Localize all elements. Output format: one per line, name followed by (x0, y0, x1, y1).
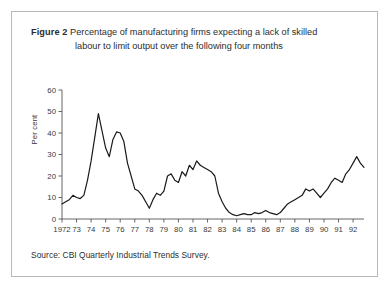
svg-text:30: 30 (47, 150, 56, 159)
data-series-line (62, 114, 364, 216)
svg-text:88: 88 (291, 225, 300, 234)
svg-text:90: 90 (320, 225, 329, 234)
figure-frame: Figure 2 Percentage of manufacturing fir… (11, 11, 378, 277)
figure-label: Figure 2 (31, 27, 68, 37)
figure-caption-line-2: labour to limit output over the followin… (31, 40, 361, 54)
svg-text:82: 82 (203, 225, 212, 234)
svg-text:40: 40 (47, 129, 56, 138)
svg-text:79: 79 (160, 225, 169, 234)
svg-text:75: 75 (101, 225, 110, 234)
svg-text:83: 83 (218, 225, 227, 234)
svg-text:60: 60 (47, 86, 56, 95)
y-axis-title: Per cent (30, 100, 39, 160)
svg-text:91: 91 (334, 225, 343, 234)
svg-text:20: 20 (47, 172, 56, 181)
source-note: Source: CBI Quarterly Industrial Trends … (31, 250, 210, 260)
svg-text:87: 87 (276, 225, 285, 234)
figure-caption: Figure 2 Percentage of manufacturing fir… (31, 26, 361, 53)
svg-text:81: 81 (189, 225, 198, 234)
svg-text:84: 84 (232, 225, 241, 234)
svg-text:85: 85 (247, 225, 256, 234)
svg-text:86: 86 (261, 225, 270, 234)
svg-text:80: 80 (174, 225, 183, 234)
svg-text:73: 73 (72, 225, 81, 234)
y-axis-ticks: 0102030405060 (47, 86, 62, 224)
svg-text:92: 92 (349, 225, 358, 234)
svg-text:76: 76 (116, 225, 125, 234)
svg-text:89: 89 (305, 225, 314, 234)
chart-plot-area: Per cent 0102030405060 19727374757677787… (12, 67, 379, 237)
line-chart-svg: 0102030405060 19727374757677787980818283… (12, 67, 379, 237)
svg-text:74: 74 (87, 225, 96, 234)
svg-text:10: 10 (47, 193, 56, 202)
x-axis-ticks: 1972737475767778798081828384858687888990… (53, 219, 357, 234)
chart-axes (62, 90, 364, 219)
svg-text:50: 50 (47, 107, 56, 116)
svg-text:78: 78 (145, 225, 154, 234)
svg-text:0: 0 (52, 215, 57, 224)
figure-caption-line-1: Percentage of manufacturing firms expect… (70, 27, 317, 37)
svg-text:77: 77 (130, 225, 139, 234)
svg-text:1972: 1972 (53, 225, 70, 234)
